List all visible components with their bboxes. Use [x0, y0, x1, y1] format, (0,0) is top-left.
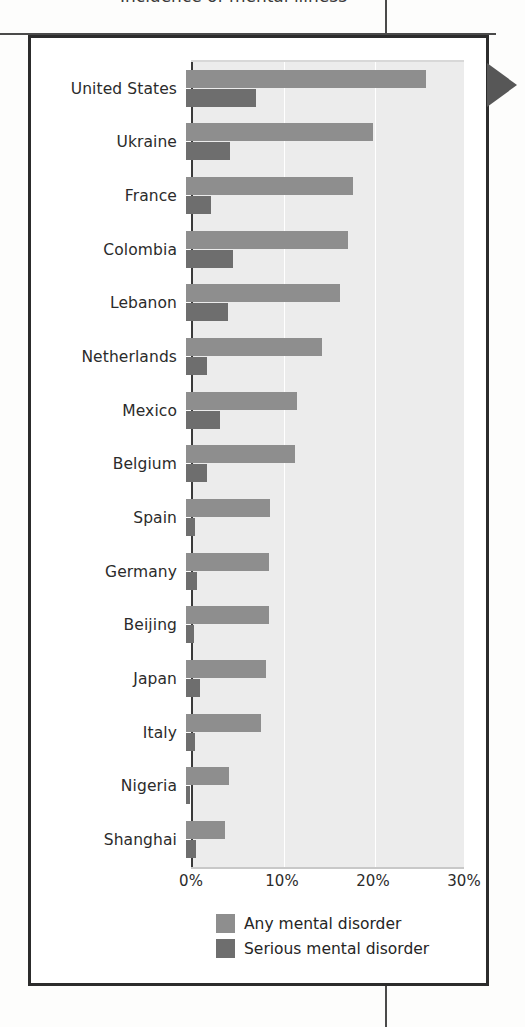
page-vertical-rule-bottom [385, 986, 387, 1027]
category-label: Ukraine [31, 133, 186, 151]
figure-container: United StatesUkraineFranceColombiaLebano… [28, 35, 489, 986]
bar-group [186, 330, 459, 384]
chart-row: Belgium [31, 438, 486, 492]
chart-row: Ukraine [31, 116, 486, 170]
bar-any [186, 177, 353, 195]
legend-label: Serious mental disorder [244, 940, 429, 958]
chart-row: Lebanon [31, 277, 486, 331]
bar-group [186, 169, 459, 223]
chart-legend: Any mental disorderSerious mental disord… [216, 914, 429, 964]
bar-serious [186, 196, 211, 214]
chart-row: Shanghai [31, 813, 486, 867]
bar-group [186, 760, 459, 814]
chart-row: Japan [31, 652, 486, 706]
legend-label: Any mental disorder [244, 915, 401, 933]
category-label: Italy [31, 724, 186, 742]
chart-row: Mexico [31, 384, 486, 438]
chart-row: Beijing [31, 599, 486, 653]
category-label: Spain [31, 509, 186, 527]
bar-any [186, 392, 297, 410]
bar-group [186, 652, 459, 706]
category-label: Lebanon [31, 294, 186, 312]
bar-any [186, 714, 261, 732]
bar-serious [186, 411, 220, 429]
legend-item[interactable]: Any mental disorder [216, 914, 429, 933]
bar-group [186, 599, 459, 653]
chart-row: United States [31, 62, 486, 116]
chart-row: Italy [31, 706, 486, 760]
chart-row: Nigeria [31, 760, 486, 814]
chart-row: Netherlands [31, 330, 486, 384]
category-label: Shanghai [31, 831, 186, 849]
bar-any [186, 499, 270, 517]
bar-group [186, 545, 459, 599]
category-label: Beijing [31, 616, 186, 634]
chart-row: France [31, 169, 486, 223]
edge-tab-marker [487, 63, 517, 107]
bar-serious [186, 464, 207, 482]
category-label: Nigeria [31, 777, 186, 795]
category-label: Colombia [31, 241, 186, 259]
x-tick-label: 10% [265, 872, 298, 890]
bar-group [186, 223, 459, 277]
bar-any [186, 606, 269, 624]
bar-serious [186, 142, 230, 160]
bar-any [186, 338, 322, 356]
bar-group [186, 116, 459, 170]
bar-group [186, 813, 459, 867]
bar-serious [186, 518, 195, 536]
bar-any [186, 284, 340, 302]
bar-serious [186, 572, 197, 590]
chart-row: Colombia [31, 223, 486, 277]
category-label: Germany [31, 563, 186, 581]
bar-any [186, 821, 225, 839]
page-title-partial: Incidence of mental illness [120, 0, 360, 12]
bar-any [186, 445, 295, 463]
legend-swatch-icon [216, 914, 235, 933]
page-vertical-rule [385, 0, 387, 35]
bar-serious [186, 786, 190, 804]
bar-group [186, 491, 459, 545]
chart-row: Germany [31, 545, 486, 599]
x-axis: 0%10%20%30% [191, 872, 464, 898]
bar-any [186, 660, 266, 678]
category-label: Belgium [31, 455, 186, 473]
bar-serious [186, 303, 228, 321]
category-label: France [31, 187, 186, 205]
x-tick-label: 0% [179, 872, 203, 890]
bar-any [186, 123, 373, 141]
x-tick-label: 20% [356, 872, 389, 890]
bar-group [186, 62, 459, 116]
bar-serious [186, 679, 200, 697]
category-label: Japan [31, 670, 186, 688]
bar-any [186, 70, 426, 88]
bar-any [186, 553, 269, 571]
bar-group [186, 384, 459, 438]
bar-chart: United StatesUkraineFranceColombiaLebano… [31, 38, 486, 983]
bar-group [186, 277, 459, 331]
bar-any [186, 231, 348, 249]
x-tick-label: 30% [447, 872, 480, 890]
plot-baseline [191, 867, 464, 869]
category-label: Netherlands [31, 348, 186, 366]
category-label: United States [31, 80, 186, 98]
legend-swatch-icon [216, 939, 235, 958]
bar-serious [186, 357, 207, 375]
bar-group [186, 706, 459, 760]
bar-serious [186, 625, 194, 643]
chart-row: Spain [31, 491, 486, 545]
bar-serious [186, 250, 233, 268]
legend-item[interactable]: Serious mental disorder [216, 939, 429, 958]
bar-group [186, 438, 459, 492]
bar-any [186, 767, 229, 785]
bar-serious [186, 89, 256, 107]
bar-serious [186, 733, 195, 751]
category-label: Mexico [31, 402, 186, 420]
bar-serious [186, 840, 196, 858]
